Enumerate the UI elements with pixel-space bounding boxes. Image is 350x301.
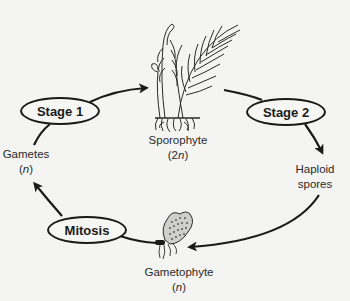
haploid-spores-label: Haploid spores: [290, 162, 340, 192]
stage-2-ellipse: Stage 2: [246, 98, 326, 126]
arrow-stage2-to-spores: [305, 124, 322, 152]
sporophyte-name: Sporophyte: [143, 133, 213, 148]
stage-2-label: Stage 2: [263, 105, 309, 120]
sporophyte-ploidy: (2n): [143, 148, 213, 163]
arrow-gametophyte-to-mitosis: [120, 236, 157, 243]
arrow-mitosis-to-gametes: [35, 184, 62, 216]
gametophyte-prothallus-illustration: [155, 212, 193, 259]
mitosis-label: Mitosis: [65, 223, 110, 238]
arrow-stage1-to-sporophyte: [90, 88, 146, 102]
stage-1-ellipse: Stage 1: [20, 97, 100, 125]
sporophyte-label: Sporophyte (2n): [143, 133, 213, 163]
mitosis-ellipse: Mitosis: [47, 216, 127, 244]
arrow-gametes-to-stage1: [34, 124, 50, 145]
arrow-sporophyte-to-stage2: [224, 90, 262, 100]
stage-1-label: Stage 1: [37, 104, 83, 119]
gametophyte-ploidy: (n): [143, 280, 215, 295]
gametes-name: Gametes: [0, 147, 52, 162]
gametophyte-name: Gametophyte: [143, 265, 215, 280]
gametes-label: Gametes (n): [0, 147, 52, 177]
gametes-ploidy: (n): [0, 162, 52, 177]
gametophyte-label: Gametophyte (n): [143, 265, 215, 295]
arrow-spores-to-gametophyte: [190, 195, 319, 247]
sporophyte-fern-illustration: [152, 24, 240, 132]
